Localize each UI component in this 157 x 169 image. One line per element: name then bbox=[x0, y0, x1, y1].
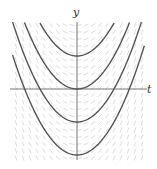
solution-curve bbox=[13, 46, 145, 155]
slope-field bbox=[15, 23, 143, 161]
slope-field-plot: yt bbox=[0, 0, 157, 169]
y-axis-label: y bbox=[72, 6, 80, 19]
t-axis-label: t bbox=[147, 83, 152, 96]
